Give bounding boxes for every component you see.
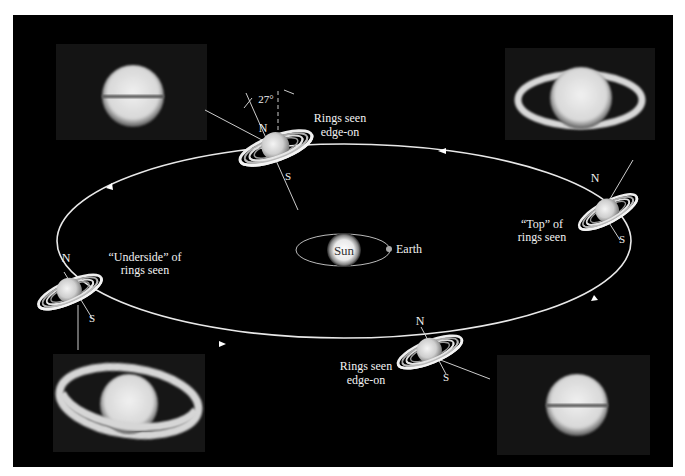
svg-text:N: N (62, 251, 71, 265)
label-underside-of-rings: “Underside” of (109, 250, 182, 264)
saturn-position-bottom: N S Rings seen edge-on (340, 314, 490, 387)
svg-text:edge-on: edge-on (321, 125, 360, 139)
saturn-position-left: N S “Underside” of rings seen (33, 250, 182, 350)
svg-text:S: S (89, 312, 95, 324)
svg-text:rings seen: rings seen (121, 263, 169, 277)
svg-text:N: N (591, 171, 600, 185)
svg-text:N: N (416, 314, 425, 328)
label-rings-edge-on-bottom: Rings seen (340, 359, 392, 373)
saturn-position-right: N S “Top” of rings seen (518, 160, 641, 245)
saturn-position-top: 27° N S Rings seen edge-on (205, 90, 366, 210)
photo-top-left (56, 44, 207, 140)
tilt-angle-label: 27° (258, 93, 273, 105)
photo-bottom-left (53, 354, 205, 452)
orbit-arrow-icon (591, 295, 598, 301)
label-rings-edge-on: Rings seen (314, 111, 366, 125)
earth-label: Earth (396, 242, 422, 256)
saturn-orbit-diagram: Sun Earth 27° N S Rings seen edge-on N S… (0, 0, 685, 476)
south-label: S (285, 170, 291, 182)
svg-text:edge-on: edge-on (347, 373, 386, 387)
svg-text:S: S (619, 233, 625, 245)
photo-bottom-right (497, 355, 650, 455)
north-label: N (259, 121, 268, 135)
orbit-arrow-icon (219, 341, 226, 347)
sun-label: Sun (334, 243, 355, 258)
photo-top-right (505, 48, 655, 140)
earth-icon (386, 246, 392, 252)
label-top-of-rings: “Top” of (521, 217, 563, 231)
svg-text:rings seen: rings seen (518, 230, 566, 244)
svg-text:S: S (443, 371, 449, 383)
